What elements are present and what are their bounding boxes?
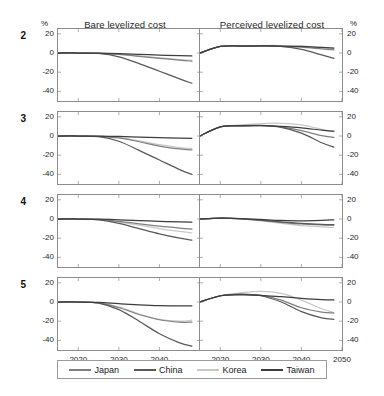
legend-item-korea[interactable]: Korea: [197, 365, 246, 375]
y-tick-right-row3-20: 20: [347, 112, 381, 121]
y-tick-right-row3--40: -40: [347, 169, 381, 178]
y-tick-left-row2--20: -20: [20, 67, 54, 76]
legend-label-japan: Japan: [94, 365, 119, 375]
unit-label-right: %: [350, 19, 357, 28]
plot-panel-row3-perceived: [199, 111, 343, 185]
y-tick-left-row4-20: 20: [20, 195, 54, 204]
y-tick-right-row5-20: 20: [347, 278, 381, 287]
plot-panel-row5-bare: [57, 277, 201, 351]
y-tick-right-row4--40: -40: [347, 252, 381, 261]
legend-label-taiwan: Taiwan: [286, 365, 314, 375]
y-tick-left-row3-0: 0: [20, 131, 54, 140]
y-tick-left-row2-20: 20: [20, 29, 54, 38]
plot-panel-row5-perceived: [199, 277, 343, 351]
legend: JapanChinaKoreaTaiwan: [57, 360, 327, 379]
plot-panel-row3-bare: [57, 111, 201, 185]
legend-item-taiwan[interactable]: Taiwan: [261, 365, 314, 375]
y-tick-left-row4--20: -20: [20, 233, 54, 242]
plot-panel-row2-perceived: [199, 28, 343, 102]
x-tick-perceived-2050: 2050: [326, 355, 358, 364]
y-tick-right-row2-0: 0: [347, 48, 381, 57]
figure-root: Bare levelized cost Perceived levelized …: [0, 0, 384, 396]
y-tick-right-row4--20: -20: [347, 233, 381, 242]
y-tick-left-row4--40: -40: [20, 252, 54, 261]
y-tick-right-row5--40: -40: [347, 335, 381, 344]
y-tick-right-row3--20: -20: [347, 150, 381, 159]
legend-swatch-japan-icon: [69, 369, 91, 371]
y-tick-right-row2--20: -20: [347, 67, 381, 76]
plot-panel-row4-perceived: [199, 194, 343, 268]
unit-label-left: %: [41, 19, 48, 28]
legend-item-japan[interactable]: Japan: [69, 365, 119, 375]
y-tick-left-row5-0: 0: [20, 297, 54, 306]
legend-item-china[interactable]: China: [134, 365, 183, 375]
y-tick-left-row3--40: -40: [20, 169, 54, 178]
legend-swatch-taiwan-icon: [261, 369, 283, 371]
y-tick-left-row5--40: -40: [20, 335, 54, 344]
y-tick-right-row3-0: 0: [347, 131, 381, 140]
y-tick-left-row2-0: 0: [20, 48, 54, 57]
y-tick-left-row5--20: -20: [20, 316, 54, 325]
legend-swatch-china-icon: [134, 369, 156, 371]
y-tick-left-row2--40: -40: [20, 86, 54, 95]
plot-panel-row2-bare: [57, 28, 201, 102]
y-tick-right-row5-0: 0: [347, 297, 381, 306]
y-tick-right-row4-20: 20: [347, 195, 381, 204]
y-tick-left-row5-20: 20: [20, 278, 54, 287]
y-tick-left-row3-20: 20: [20, 112, 54, 121]
y-tick-right-row2--40: -40: [347, 86, 381, 95]
y-tick-left-row4-0: 0: [20, 214, 54, 223]
y-tick-left-row3--20: -20: [20, 150, 54, 159]
legend-label-korea: Korea: [222, 365, 246, 375]
legend-swatch-korea-icon: [197, 369, 219, 371]
plot-panel-row4-bare: [57, 194, 201, 268]
y-tick-right-row4-0: 0: [347, 214, 381, 223]
y-tick-right-row5--20: -20: [347, 316, 381, 325]
y-tick-right-row2-20: 20: [347, 29, 381, 38]
legend-label-china: China: [159, 365, 183, 375]
